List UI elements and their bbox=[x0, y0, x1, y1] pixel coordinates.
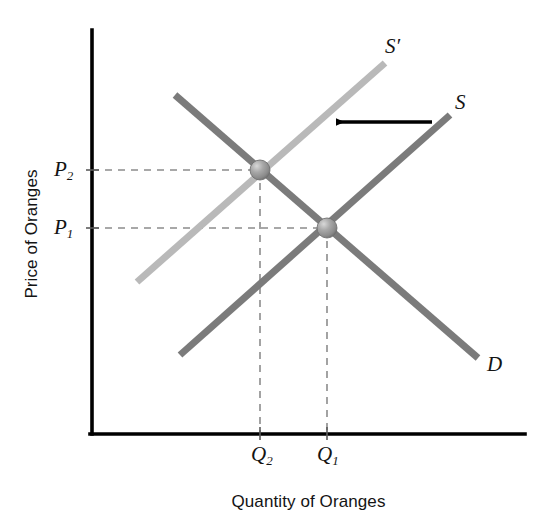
equilibrium-point-e2 bbox=[250, 160, 270, 180]
quantity-tick-label-q2-subscript: 2 bbox=[266, 453, 273, 468]
quantity-tick-label-q1: Q1 bbox=[317, 444, 339, 467]
price-tick-label-p1: P1 bbox=[54, 217, 73, 240]
curves bbox=[137, 63, 478, 358]
x-axis-title: Quantity of Oranges bbox=[92, 492, 525, 512]
y-axis-title: Price of Oranges bbox=[22, 134, 42, 334]
price-tick-label-p1-base: P bbox=[54, 215, 67, 239]
curve-label-supply-shifted: S′ bbox=[385, 36, 400, 57]
quantity-tick-label-q2-base: Q bbox=[251, 442, 266, 466]
supply-demand-figure: Price of Oranges Quantity of Oranges P2 … bbox=[0, 0, 539, 522]
quantity-tick-label-q2: Q2 bbox=[251, 444, 273, 467]
curve-supply bbox=[180, 115, 450, 355]
price-tick-label-p1-subscript: 1 bbox=[67, 226, 74, 241]
price-tick-label-p2: P2 bbox=[54, 159, 73, 182]
tick-marks bbox=[86, 170, 327, 440]
price-tick-label-p2-subscript: 2 bbox=[67, 168, 74, 183]
curve-label-supply: S bbox=[455, 92, 466, 113]
quantity-tick-label-q1-base: Q bbox=[317, 442, 332, 466]
price-tick-label-p2-base: P bbox=[54, 157, 67, 181]
equilibrium-point-e1 bbox=[317, 218, 337, 238]
quantity-tick-label-q1-subscript: 1 bbox=[332, 453, 339, 468]
curve-label-demand: D bbox=[487, 354, 502, 375]
guide-lines bbox=[92, 170, 329, 434]
